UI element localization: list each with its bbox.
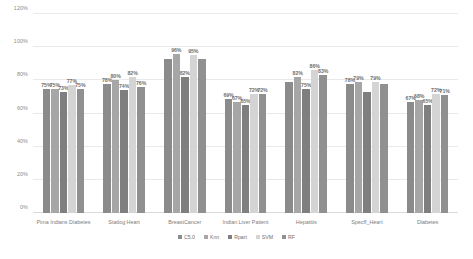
legend-item[interactable]: C5.0 (178, 234, 195, 240)
bar-group: 67%68%65%72%71%Diabetes (397, 14, 458, 213)
bar-value-label: 79% (370, 75, 380, 81)
legend-item[interactable]: Knn (204, 234, 219, 240)
bar-slot: 96% (173, 14, 181, 213)
y-axis-tick-label: 20% (17, 171, 28, 177)
bar-slot: 73% (60, 14, 68, 213)
bar-value-label: 82% (180, 70, 190, 76)
bar-slot: 77% (68, 14, 76, 213)
x-axis-category-label: Diabetes (417, 219, 438, 225)
bar (60, 92, 68, 213)
bar (285, 82, 293, 213)
bar (198, 59, 206, 213)
bar (294, 77, 302, 213)
bar-value-label: 80% (110, 73, 120, 79)
legend-swatch (256, 235, 260, 239)
bar-slot: 82% (129, 14, 137, 213)
bar-value-label: 65% (423, 98, 433, 104)
bar (319, 75, 327, 213)
bar-value-label: 82% (127, 70, 137, 76)
legend-swatch (228, 235, 232, 239)
x-axis-category-label: Pima Indians Diabetes (36, 219, 90, 225)
x-axis-category-label: Statlog Heart (108, 219, 139, 225)
legend-item[interactable]: RF (282, 234, 295, 240)
bar (103, 84, 111, 213)
bar-value-label: 71% (440, 88, 450, 94)
y-axis-tick-label: 60% (17, 105, 28, 111)
bar-slot (285, 14, 293, 213)
bar (259, 94, 267, 213)
bar-value-label: 96% (171, 47, 181, 53)
bar-group: 78%79%79%Specff_Heart (337, 14, 398, 213)
y-axis-tick-label: 120% (14, 5, 28, 11)
bar (225, 99, 233, 213)
bar (68, 85, 76, 213)
bar-value-label: 75% (301, 82, 311, 88)
legend-item[interactable]: Rpart (228, 234, 247, 240)
bar (233, 102, 241, 213)
bar (302, 89, 310, 213)
bar-group: 69%67%65%72%72%Indian Liver Patient (215, 14, 276, 213)
bar-slot: 65% (242, 14, 250, 213)
bar-slot: 69% (225, 14, 233, 213)
legend-item[interactable]: SVM (256, 234, 273, 240)
bar (173, 54, 181, 213)
bar-value-label: 79% (353, 75, 363, 81)
bar (77, 89, 85, 213)
bar-slot: 75% (77, 14, 85, 213)
x-axis-category-label: Hepatitis (296, 219, 317, 225)
bar-slot: 83% (319, 14, 327, 213)
bar (164, 59, 172, 213)
plot-area: 0%20%40%60%80%100%120% 75%75%73%77%75%Pi… (33, 14, 458, 213)
chart-legend: C5.0KnnRpartSVMRF (0, 234, 473, 240)
bar-slot: 71% (441, 14, 449, 213)
bar (355, 82, 363, 213)
bar-slot: 75% (302, 14, 310, 213)
bar-slot: 95% (190, 14, 198, 213)
bar (311, 70, 319, 213)
bar (242, 105, 250, 213)
bar-slot: 68% (415, 14, 423, 213)
bar-slot: 76% (137, 14, 145, 213)
bar (43, 89, 51, 213)
bar-slot (380, 14, 388, 213)
bar-slot: 72% (432, 14, 440, 213)
bar-slot (363, 14, 371, 213)
bar (432, 94, 440, 213)
bar-group: 75%75%73%77%75%Pima Indians Diabetes (33, 14, 94, 213)
bar-slot: 75% (51, 14, 59, 213)
bar-group: 96%82%95%BreastCancer (154, 14, 215, 213)
bar-group: 82%75%86%83%Hepatitis (276, 14, 337, 213)
bar (380, 84, 388, 213)
y-axis-tick-label: 40% (17, 138, 28, 144)
bar-slot: 67% (233, 14, 241, 213)
bar-slot: 80% (112, 14, 120, 213)
bar-slot: 82% (294, 14, 302, 213)
bar-value-label: 73% (58, 85, 68, 91)
bar-slot: 74% (120, 14, 128, 213)
bar (112, 80, 120, 213)
bar-slot: 79% (372, 14, 380, 213)
x-axis-category-label: BreastCancer (168, 219, 201, 225)
bar (190, 55, 198, 213)
x-axis-category-label: Specff_Heart (351, 219, 382, 225)
y-axis-tick-label: 100% (14, 38, 28, 44)
bar (424, 105, 432, 213)
bar (407, 102, 415, 213)
bar (51, 89, 59, 213)
legend-label: Knn (210, 234, 219, 240)
bar (181, 77, 189, 213)
bar-slot: 75% (43, 14, 51, 213)
bar-value-label: 95% (188, 48, 198, 54)
bar-slot: 65% (424, 14, 432, 213)
bar-group: 78%80%74%82%76%Statlog Heart (94, 14, 155, 213)
bar-slot: 67% (407, 14, 415, 213)
bar-value-label: 74% (119, 83, 129, 89)
bar-slot (164, 14, 172, 213)
legend-label: Rpart (234, 234, 247, 240)
bar-slot (198, 14, 206, 213)
bar (415, 100, 423, 213)
bar-slot: 78% (346, 14, 354, 213)
legend-swatch (204, 235, 208, 239)
x-axis-category-label: Indian Liver Patient (222, 219, 268, 225)
bar-value-label: 65% (240, 98, 250, 104)
